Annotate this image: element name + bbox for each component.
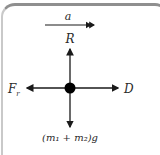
resistance-force-label: Fr [7,82,20,98]
weight-force-label: (m₁ + m₂)g [42,132,98,143]
free-body-diagram: a R Fr D (m₁ + m₂)g [0,0,160,155]
reaction-force-label: R [64,32,74,46]
particle-dot [65,83,76,94]
driving-force-label: D [123,82,134,96]
acceleration-label: a [65,10,72,23]
